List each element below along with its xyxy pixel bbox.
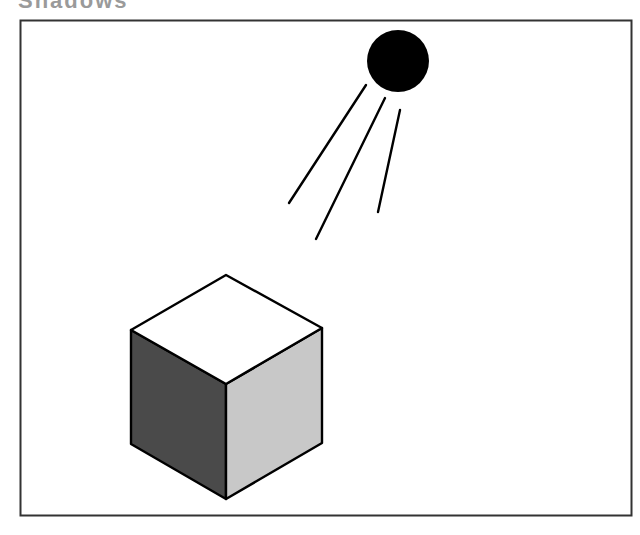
diagram-canvas: Shadows	[0, 0, 640, 535]
light-and-shadow-figure	[0, 0, 640, 535]
sun-light-source-icon	[367, 30, 429, 92]
figure-frame	[21, 21, 632, 516]
